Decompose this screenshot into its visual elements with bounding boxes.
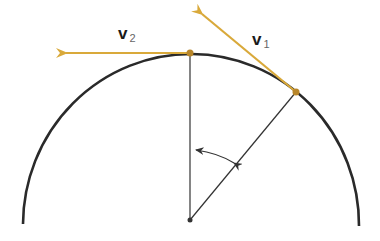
- radius-line-diagonal: [190, 92, 296, 220]
- point-p1: [293, 89, 300, 96]
- label-v2: v2: [118, 24, 136, 44]
- label-v2-main: v: [118, 24, 127, 43]
- velocity-vector-v1: [202, 14, 296, 92]
- center-point: [188, 218, 193, 223]
- circular-path-arc: [23, 54, 359, 226]
- diagram-canvas: [0, 0, 380, 241]
- angle-arc-icon: [196, 150, 234, 163]
- label-v1-sub: 1: [263, 38, 269, 50]
- label-v1-main: v: [252, 30, 261, 49]
- label-v2-sub: 2: [129, 32, 135, 44]
- point-p2: [187, 50, 194, 57]
- label-v1: v1: [252, 30, 270, 50]
